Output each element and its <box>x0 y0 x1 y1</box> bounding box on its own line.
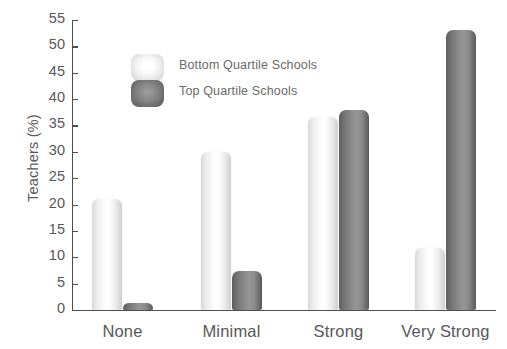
legend-item-bottom-quartile: Bottom Quartile Schools <box>131 54 341 80</box>
legend-item-top-quartile: Top Quartile Schools <box>131 80 341 106</box>
x-axis-label-strong: Strong <box>278 322 399 341</box>
y-axis-tick-label: 40 <box>31 90 65 105</box>
y-axis-tick-label: 30 <box>31 143 65 158</box>
bar-strong-bottom-quartile <box>308 117 338 311</box>
y-axis-tick-label: 20 <box>31 196 65 211</box>
legend-swatch-icon-bottom-quartile <box>131 54 164 81</box>
legend-label-top-quartile: Top Quartile Schools <box>179 84 297 98</box>
bar-minimal-bottom-quartile <box>201 152 231 310</box>
bar-none-top-quartile <box>123 303 153 310</box>
legend-swatch-icon-top-quartile <box>131 80 164 107</box>
bar-very-strong-bottom-quartile <box>415 248 445 310</box>
bar-strong-top-quartile <box>339 110 369 310</box>
y-axis-tick-label: 5 <box>31 275 65 290</box>
bar-minimal-top-quartile <box>232 271 262 310</box>
x-axis-label-none: None <box>62 322 183 341</box>
bar-very-strong-top-quartile <box>446 30 476 311</box>
y-axis-tick-label: 50 <box>31 37 65 52</box>
bar-chart: Teachers (%) 0510152025303540455055 None… <box>0 0 507 349</box>
y-axis-tick-label: 0 <box>31 301 65 316</box>
y-axis-tick-label: 45 <box>31 64 65 79</box>
legend-label-bottom-quartile: Bottom Quartile Schools <box>179 58 317 72</box>
x-axis-label-minimal: Minimal <box>171 322 292 341</box>
x-axis-label-very-strong: Very Strong <box>385 322 506 341</box>
y-axis-tick-label: 15 <box>31 222 65 237</box>
legend: Bottom Quartile Schools Top Quartile Sch… <box>131 54 341 106</box>
y-axis-tick-label: 10 <box>31 248 65 263</box>
y-axis-tick-label: 55 <box>31 11 65 26</box>
bar-none-bottom-quartile <box>92 199 122 310</box>
y-axis-tick-label: 25 <box>31 169 65 184</box>
y-axis-tick-label: 35 <box>31 116 65 131</box>
